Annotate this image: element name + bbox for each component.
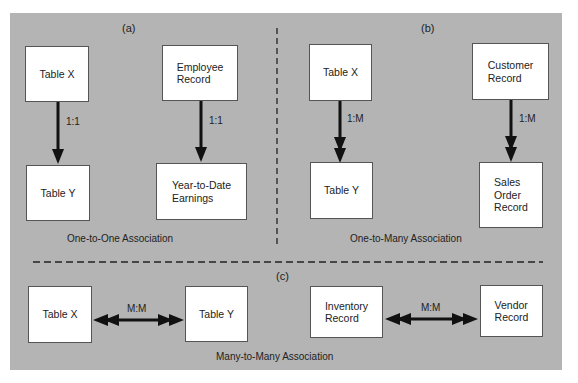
table-x-box: Table X [28, 286, 92, 343]
sales-order-record-box: Sales Order Record [479, 162, 543, 228]
arrow-many-to-many-icon [385, 313, 478, 325]
relation-label: M:M [421, 302, 440, 313]
arrow-one-to-many-icon [505, 100, 517, 162]
table-x-box: Table X [309, 44, 372, 101]
panel-a-label: (a) [122, 22, 135, 34]
table-x-box: Table X [25, 46, 89, 102]
caption-one-to-many: One-to-Many Association [350, 233, 462, 244]
box-label: Table Y [324, 184, 359, 197]
box-label: Table X [39, 68, 74, 81]
box-label: Table X [323, 66, 358, 79]
box-label: Sales Order Record [494, 176, 528, 214]
arrow-one-to-many-icon [334, 101, 346, 163]
box-label: Year-to-Date Earnings [172, 179, 231, 204]
relation-label: 1:M [519, 113, 536, 124]
table-y-box: Table Y [310, 162, 373, 219]
box-label: Customer Record [488, 59, 534, 84]
box-label: Inventory Record [325, 300, 368, 325]
panel-c-label: (c) [276, 270, 289, 282]
table-y-box: Table Y [185, 286, 248, 342]
relation-label: 1:1 [209, 115, 223, 126]
year-to-date-earnings-box: Year-to-Date Earnings [156, 163, 247, 220]
box-label: Employee Record [177, 61, 224, 86]
arrow-one-to-one-icon [52, 102, 64, 164]
panel-b-label: (b) [421, 22, 434, 34]
box-label: Vendor Record [495, 299, 529, 324]
customer-record-box: Customer Record [472, 43, 549, 100]
vendor-record-box: Vendor Record [480, 285, 543, 337]
caption-one-to-one: One-to-One Association [67, 233, 173, 244]
box-label: Table X [42, 308, 77, 321]
caption-many-to-many: Many-to-Many Association [216, 351, 333, 362]
arrow-one-to-one-icon [195, 101, 207, 162]
relation-label: 1:1 [66, 116, 80, 127]
box-label: Table Y [41, 187, 76, 200]
employee-record-box: Employee Record [162, 45, 238, 101]
table-y-box: Table Y [26, 165, 90, 221]
relation-label: 1:M [347, 113, 364, 124]
arrow-many-to-many-icon [93, 314, 184, 326]
box-label: Table Y [199, 308, 234, 321]
inventory-record-box: Inventory Record [310, 286, 383, 338]
relation-label: M:M [127, 303, 146, 314]
